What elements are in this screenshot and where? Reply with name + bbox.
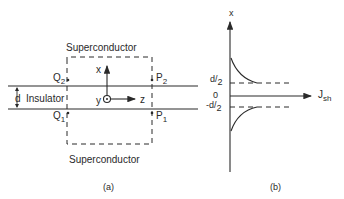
point-p1-marker [151, 112, 154, 115]
point-q1-label: Q1 [53, 110, 66, 124]
panel-b: x Jsh d/2 0 -d/2 (b) [206, 8, 331, 192]
josephson-junction-diagram: d Insulator Superconductor Superconducto… [0, 0, 344, 199]
y-axis-label: y [96, 95, 101, 106]
point-p2-marker [151, 79, 154, 82]
coordinate-system: x y z [96, 64, 145, 106]
point-q1-marker [67, 112, 70, 115]
z-axis-label: z [140, 94, 145, 105]
tick-plus-half-d: d/2 [210, 74, 223, 87]
upper-decay-curve [231, 58, 257, 83]
insulator-label: Insulator [26, 93, 65, 104]
x-axis-label-b: x [229, 8, 234, 18]
point-p1-label: P1 [156, 110, 168, 124]
jsh-axis-label: Jsh [318, 89, 331, 103]
panel-a: d Insulator Superconductor Superconducto… [8, 42, 198, 192]
panel-b-caption: (b) [270, 182, 281, 192]
tick-minus-half-d: -d/2 [206, 100, 222, 113]
panel-a-caption: (a) [103, 182, 114, 192]
point-q2-marker [67, 79, 70, 82]
lower-decay-curve [231, 107, 257, 131]
superconductor-top-label: Superconductor [66, 42, 137, 53]
tick-zero: 0 [213, 90, 218, 100]
point-p2-label: P2 [156, 72, 168, 86]
thickness-dimension: d [15, 87, 21, 108]
thickness-label: d [15, 93, 21, 104]
superconductor-bottom-label: Superconductor [69, 154, 140, 165]
x-axis-label: x [96, 64, 101, 75]
point-q2-label: Q2 [53, 72, 66, 86]
